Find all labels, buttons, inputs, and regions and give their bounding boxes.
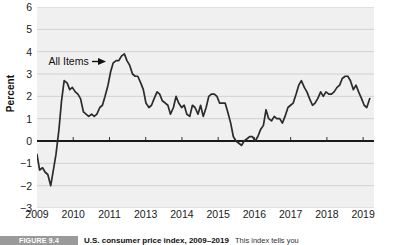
plot-area bbox=[37, 7, 374, 208]
x-axis-tick-label: 2014 bbox=[170, 208, 193, 220]
y-axis-tick-label: 4 bbox=[26, 47, 32, 57]
x-axis-tick-label: 2017 bbox=[279, 208, 302, 220]
y-axis-tick-label: −1 bbox=[20, 158, 32, 168]
y-axis-tick-label: 6 bbox=[26, 2, 32, 12]
y-axis-tick-labels: 6543210−1−2−3 bbox=[0, 0, 36, 215]
figure-caption-text: This index tells you bbox=[235, 236, 395, 245]
figure-caption: FIGURE 9.4 U.S. consumer price index, 20… bbox=[0, 236, 395, 245]
x-axis-tick-label: 2010 bbox=[62, 208, 85, 220]
x-axis-tick-label: 2019 bbox=[351, 208, 374, 220]
x-axis-tick-label: 2011 bbox=[98, 208, 121, 220]
y-axis-tick-label: −2 bbox=[20, 181, 32, 191]
x-axis-tick-label: 2015 bbox=[206, 208, 229, 220]
x-axis-tick-label: 2016 bbox=[243, 208, 266, 220]
x-axis-tick-labels: 2009201020112013201420152016201720182019 bbox=[0, 208, 395, 224]
x-axis-tick-label: 2013 bbox=[134, 208, 157, 220]
x-axis-tick-label: 2018 bbox=[315, 208, 338, 220]
y-axis-tick-label: 1 bbox=[26, 114, 32, 124]
plot-canvas bbox=[37, 7, 374, 208]
cpi-line-chart-figure: Percent 6543210−1−2−3 All Items 20092010… bbox=[0, 0, 395, 245]
y-axis-tick-label: 0 bbox=[26, 136, 32, 146]
figure-number-badge: FIGURE 9.4 bbox=[0, 236, 78, 245]
y-axis-tick-label: 5 bbox=[26, 24, 32, 34]
figure-caption-title: U.S. consumer price index, 2009–2019 bbox=[84, 236, 229, 245]
y-axis-tick-label: 2 bbox=[26, 91, 32, 101]
y-axis-tick-label: 3 bbox=[26, 69, 32, 79]
x-axis-tick-label: 2009 bbox=[25, 208, 48, 220]
